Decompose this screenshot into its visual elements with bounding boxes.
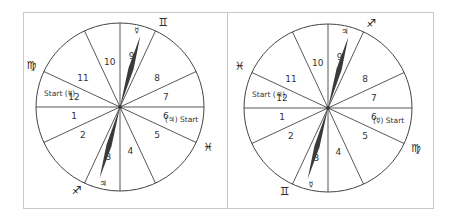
zodiac-sign-lower-right-icon: ♍ [411,142,421,155]
needle-pivot [118,105,122,109]
sector-number: 2 [288,131,294,141]
sector-number: 7 [371,93,377,103]
sector-number: 10 [104,57,116,67]
sector-divider [328,108,363,184]
zodiac-sign-lower-right-icon: ♓ [203,141,213,154]
sector-number: 4 [335,147,341,157]
sector-number: 11 [77,73,88,83]
sector-divider [85,107,120,183]
sector-divider [120,31,155,107]
sector-number: 8 [362,74,368,84]
needle-pivot [326,106,330,110]
needle-upper [328,37,348,108]
sector-number: 1 [279,112,285,122]
zodiac-sign-top-right-icon: ♐ [366,17,376,30]
wheel-diagram: 123456789101112☿♃Start (☿)(♃) Start♊♍♓♐1… [0,0,456,221]
needle-bottom-planet-icon: ☿ [309,180,314,189]
needle-top-planet-icon: ♃ [341,27,348,36]
needle-lower [100,107,120,178]
zodiac-sign-upper-left-icon: ♓ [235,60,245,73]
start-label-left: Start (♃) [252,90,285,99]
needle-bottom-planet-icon: ♃ [100,179,107,188]
sector-number: 11 [285,74,296,84]
sector-divider [328,32,363,108]
sector-number: 5 [362,131,368,141]
sector-number: 1 [71,111,77,121]
sector-number: 2 [80,130,86,140]
sector-number: 7 [163,92,169,102]
needle-top-planet-icon: ☿ [134,26,139,35]
sector-number: 5 [154,130,160,140]
start-label-right: (☿) Start [373,116,404,125]
zodiac-sign-bottom-left-icon: ♐ [72,184,82,197]
zodiac-sign-top-right-icon: ♊ [158,16,168,29]
needle-upper [120,36,140,107]
needle-lower [308,108,328,179]
sector-number: 8 [154,73,160,83]
zodiac-sign-bottom-left-icon: ♊ [280,185,290,198]
zodiac-sign-upper-left-icon: ♍ [27,59,37,72]
sector-divider [85,31,120,107]
sector-number: 4 [127,146,133,156]
start-label-left: Start (☿) [44,89,75,98]
sector-divider [293,108,328,184]
start-label-right: (♃) Start [165,115,198,124]
sector-divider [293,32,328,108]
sector-number: 10 [312,58,324,68]
sector-divider [120,107,155,183]
